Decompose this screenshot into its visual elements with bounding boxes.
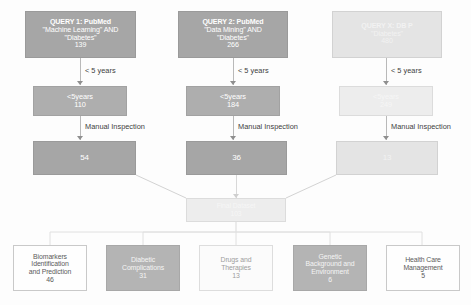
inspection-label-3: Manual Inspection: [391, 122, 451, 131]
inspection-label-1: Manual Inspection: [85, 122, 145, 131]
years-box-1-count: 110: [74, 101, 85, 109]
merge-box-label: Final Dataset: [217, 202, 256, 210]
inspection-label-2: Manual Inspection: [238, 122, 298, 131]
filter-label-1: < 5 years: [85, 66, 116, 75]
category-4-line-1: Genetic: [318, 253, 341, 261]
category-3-line-2: Therapies: [221, 264, 251, 272]
result-box-2: 36: [186, 141, 287, 175]
query-box-2: QUERY 2: PubMed "Data Mining" AND "Diabe…: [178, 11, 288, 58]
years-box-3: <5years 249: [339, 86, 433, 116]
category-4-line-3: Environment: [311, 268, 349, 276]
arrow-head-query2: [230, 81, 236, 85]
category-2-count: 31: [139, 272, 146, 280]
result-box-1: 54: [33, 141, 136, 175]
query-1-count: 139: [75, 42, 87, 50]
arrow-head-query1: [77, 81, 83, 85]
category-5-line-1: Health Care: [405, 256, 441, 264]
arrow-head-inspection1: [77, 136, 83, 140]
filter-label-2: < 5 years: [238, 66, 269, 75]
result-box-3-count: 13: [383, 154, 392, 163]
merge-box: Final Dataset 103: [186, 198, 286, 222]
years-box-2: <5years 184: [186, 86, 280, 116]
category-box-5: Health Care Management 5: [386, 245, 460, 291]
category-1-line-2: Identification: [31, 260, 68, 268]
category-4-count: 6: [328, 276, 332, 284]
filter-label-3: < 5 years: [391, 66, 422, 75]
category-1-line-3: and Prediction: [29, 268, 72, 276]
category-1-count: 46: [46, 276, 53, 284]
result-box-1-count: 54: [80, 154, 89, 163]
query-box-1: QUERY 1: PubMed "Machine Learning" AND "…: [25, 11, 136, 58]
years-box-1: <5years 110: [33, 86, 127, 116]
category-1-line-1: Biomarkers: [33, 253, 67, 261]
category-3-line-1: Drugs and: [221, 256, 252, 264]
query-2-count: 266: [227, 42, 239, 50]
category-5-count: 5: [421, 272, 425, 280]
result-box-3: 13: [336, 141, 438, 175]
category-2-line-2: Complications: [122, 264, 164, 272]
arrow-head-inspection3: [383, 136, 389, 140]
category-box-4: Genetic Background and Environment 6: [293, 245, 367, 291]
years-box-2-count: 184: [227, 101, 239, 109]
query-3-count: 480: [381, 38, 393, 46]
merge-box-count: 103: [230, 210, 241, 218]
category-4-line-2: Background and: [306, 260, 355, 268]
category-box-3: Drugs and Therapies 13: [199, 245, 273, 291]
category-box-1: Biomarkers Identification and Prediction…: [13, 245, 87, 291]
result-box-2-count: 36: [232, 154, 241, 163]
flowchart-canvas: QUERY 1: PubMed "Machine Learning" AND "…: [0, 0, 471, 305]
arrow-head-query3: [383, 81, 389, 85]
category-3-count: 13: [232, 272, 239, 280]
category-box-2: Diabetic Complications 31: [106, 245, 180, 291]
category-5-line-2: Management: [403, 264, 442, 272]
arrow-head-inspection2: [230, 136, 236, 140]
years-box-3-count: 249: [380, 101, 392, 109]
query-box-3: QUERY X: DB P "Diabetes" 480: [332, 11, 442, 58]
category-2-line-1: Diabetic: [131, 256, 155, 264]
